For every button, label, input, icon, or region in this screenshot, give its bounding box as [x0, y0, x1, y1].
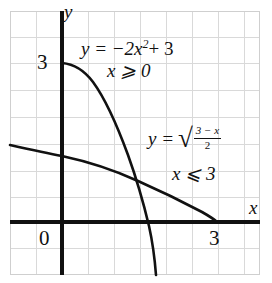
sqrt-equation-label: y = √ 3 − x 2	[148, 125, 221, 152]
x-tick-label-3: 3	[209, 228, 220, 249]
radical-icon: √	[178, 125, 193, 152]
sqrt-condition-label: x ⩽ 3	[172, 164, 215, 183]
sqrt-numerator: 3 − x	[194, 125, 221, 139]
sqrt-equation-lead: y =	[148, 129, 174, 148]
parabola-equation-variable: x	[134, 38, 142, 59]
sqrt-radicand: 3 − x 2	[194, 125, 221, 151]
parabola-equation-lead: y = −2	[81, 38, 134, 59]
origin-label: 0	[39, 228, 50, 249]
parabola-condition-label: x ⩾ 0	[107, 61, 150, 80]
x-axis-label: x	[249, 198, 257, 217]
y-axis-label: y	[64, 2, 72, 21]
y-tick-label-3: 3	[37, 52, 48, 73]
parabola-equation-tail: + 3	[149, 38, 174, 59]
sqrt-denominator: 2	[205, 139, 211, 152]
graph-figure: y x 3 0 3 y = −2x2+ 3 x ⩾ 0 y = √ 3 − x …	[0, 0, 272, 283]
parabola-equation-label: y = −2x2+ 3	[81, 38, 173, 58]
